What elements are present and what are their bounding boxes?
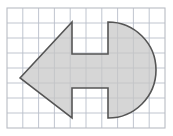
figure-canvas [0, 0, 173, 136]
